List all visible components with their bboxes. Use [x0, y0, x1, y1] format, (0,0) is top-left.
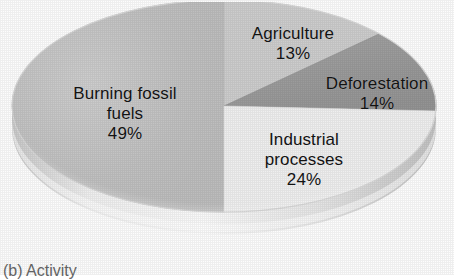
pie-label-text-line2: processes — [265, 150, 343, 169]
pie-label-percent: 13% — [226, 44, 360, 64]
pie-label-percent: 14% — [296, 94, 454, 114]
pie-label-text-line1: Burning fossil — [73, 84, 176, 103]
pie-label-burning-fossil-fuels: Burning fossil fuels 49% — [46, 84, 204, 144]
pie-label-deforestation: Deforestation 14% — [296, 74, 454, 114]
pie-label-text-line2: fuels — [107, 104, 143, 123]
pie-label-agriculture: Agriculture 13% — [226, 24, 360, 64]
pie-label-text-line1: Agriculture — [252, 24, 334, 43]
pie-label-text-line1: Industrial — [269, 130, 339, 149]
pie-label-percent: 49% — [46, 124, 204, 144]
pie-label-text-line1: Deforestation — [326, 74, 428, 93]
pie-chart-graphic: Burning fossil fuels 49% Agriculture 13%… — [8, 2, 446, 260]
pie-label-percent: 24% — [236, 170, 372, 190]
figure-caption: (b) Activity — [3, 261, 77, 280]
pie-label-industrial-processes: Industrial processes 24% — [236, 130, 372, 190]
